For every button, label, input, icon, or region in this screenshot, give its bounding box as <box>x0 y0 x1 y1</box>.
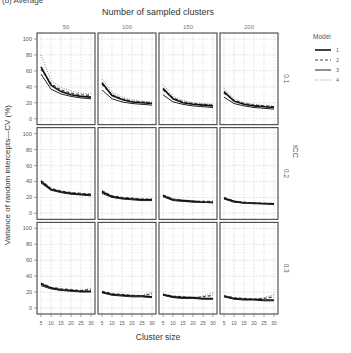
y-tick-label: 0 <box>29 210 32 216</box>
y-tick-label: 20 <box>26 194 32 200</box>
row-facet-title: ICC <box>291 145 300 159</box>
x-tick-label: 20 <box>190 321 196 326</box>
x-tick-label: 5 <box>40 321 43 326</box>
panel-icc-0.2-clusters-100 <box>98 128 156 220</box>
x-tick-label: 10 <box>109 321 115 326</box>
series-model-2 <box>41 69 91 95</box>
x-tick-label: 15 <box>241 321 247 326</box>
panel-frame <box>220 33 278 125</box>
x-tick-label: 15 <box>119 321 125 326</box>
x-tick-label: 30 <box>88 321 94 326</box>
legend-label: 4 <box>336 77 339 83</box>
row-facet-label: 0.1 <box>283 74 290 83</box>
column-facet-label: 150 <box>183 24 194 30</box>
panel-frame <box>98 33 156 125</box>
row-facet-label: 0.2 <box>283 169 290 178</box>
panel-icc-0.3-clusters-200: 51015202530 <box>220 222 278 326</box>
row-facet-label: 0.3 <box>283 264 290 273</box>
panel-icc-0.3-clusters-50: 02040608010051015202530 <box>23 222 95 326</box>
legend-label: 2 <box>336 57 339 63</box>
y-tick-label: 60 <box>26 257 32 263</box>
y-tick-label: 60 <box>26 163 32 169</box>
x-tick-label: 5 <box>223 321 226 326</box>
x-tick-label: 20 <box>68 321 74 326</box>
x-tick-label: 10 <box>48 321 54 326</box>
y-tick-label: 100 <box>23 131 32 137</box>
panel-icc-0.1-clusters-100 <box>98 33 156 125</box>
column-facet-label: 200 <box>244 24 255 30</box>
y-tick-label: 40 <box>26 84 32 90</box>
x-tick-label: 10 <box>170 321 176 326</box>
y-tick-label: 60 <box>26 68 32 74</box>
panel-icc-0.1-clusters-200 <box>220 33 278 125</box>
faceted-line-chart: 0204060801000204060801000204060801005101… <box>0 0 351 353</box>
y-tick-label: 0 <box>29 305 32 311</box>
series-model-1 <box>102 83 152 104</box>
legend-label: 1 <box>336 47 339 53</box>
legend-label: 3 <box>336 67 339 73</box>
y-tick-label: 40 <box>26 178 32 184</box>
x-tick-label: 15 <box>58 321 64 326</box>
legend: Model1234 <box>313 33 339 83</box>
column-facet-label: 50 <box>63 24 70 30</box>
x-tick-label: 25 <box>139 321 145 326</box>
x-tick-label: 30 <box>149 321 155 326</box>
x-tick-label: 5 <box>162 321 165 326</box>
panel-frame <box>98 128 156 220</box>
x-tick-label: 25 <box>78 321 84 326</box>
panel-frame <box>159 222 217 314</box>
x-tick-label: 15 <box>180 321 186 326</box>
y-tick-label: 20 <box>26 100 32 106</box>
y-tick-label: 80 <box>26 52 32 58</box>
panel-icc-0.2-clusters-200 <box>220 128 278 220</box>
panel-icc-0.1-clusters-150 <box>159 33 217 125</box>
series-model-4 <box>41 55 91 94</box>
panel-frame <box>220 128 278 220</box>
y-tick-label: 100 <box>23 225 32 231</box>
x-tick-label: 5 <box>101 321 104 326</box>
panel-icc-0.1-clusters-50: 020406080100 <box>23 33 95 125</box>
y-tick-label: 20 <box>26 289 32 295</box>
series-model-4 <box>224 88 274 106</box>
x-tick-label: 30 <box>210 321 216 326</box>
panel-frame <box>37 222 95 314</box>
panel-frame <box>159 33 217 125</box>
panel-frame <box>98 222 156 314</box>
legend-title: Model <box>313 33 331 40</box>
panel-icc-0.3-clusters-100: 51015202530 <box>98 222 156 326</box>
series-model-1 <box>41 67 91 97</box>
panel-frame <box>37 33 95 125</box>
y-axis-title: Variance of random intercepts—CV (%) <box>3 105 12 245</box>
x-tick-label: 20 <box>129 321 135 326</box>
x-tick-label: 30 <box>271 321 277 326</box>
panel-icc-0.3-clusters-150: 51015202530 <box>159 222 217 326</box>
series-model-4 <box>163 84 213 104</box>
panel-icc-0.2-clusters-50: 020406080100 <box>23 128 95 220</box>
x-tick-label: 25 <box>261 321 267 326</box>
panel-frame <box>37 128 95 220</box>
y-tick-label: 100 <box>23 36 32 42</box>
y-tick-label: 80 <box>26 147 32 153</box>
x-tick-label: 25 <box>200 321 206 326</box>
y-tick-label: 40 <box>26 273 32 279</box>
column-facet-label: 100 <box>122 24 133 30</box>
y-tick-label: 0 <box>29 116 32 122</box>
series-model-1 <box>102 192 152 200</box>
series-model-4 <box>102 79 152 102</box>
x-axis-title: Cluster size <box>136 332 181 342</box>
panel-icc-0.2-clusters-150 <box>159 128 217 220</box>
top-axis-title: Number of sampled clusters <box>102 7 215 17</box>
y-tick-label: 80 <box>26 241 32 247</box>
series-model-1 <box>163 88 213 106</box>
x-tick-label: 10 <box>231 321 237 326</box>
panel-frame <box>159 128 217 220</box>
x-tick-label: 20 <box>251 321 257 326</box>
